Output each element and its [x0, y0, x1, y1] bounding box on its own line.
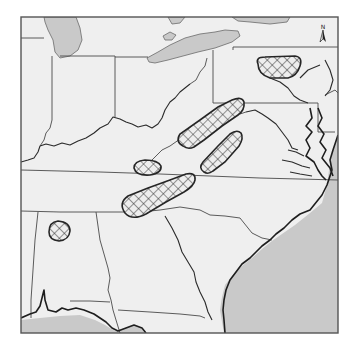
svg-text:N: N	[321, 23, 326, 30]
zone-tennessee-kentucky-border	[134, 160, 161, 175]
map: N	[0, 0, 354, 346]
zone-northern-pennsylvania	[257, 56, 301, 78]
zone-northern-alabama-mississippi	[49, 221, 70, 241]
